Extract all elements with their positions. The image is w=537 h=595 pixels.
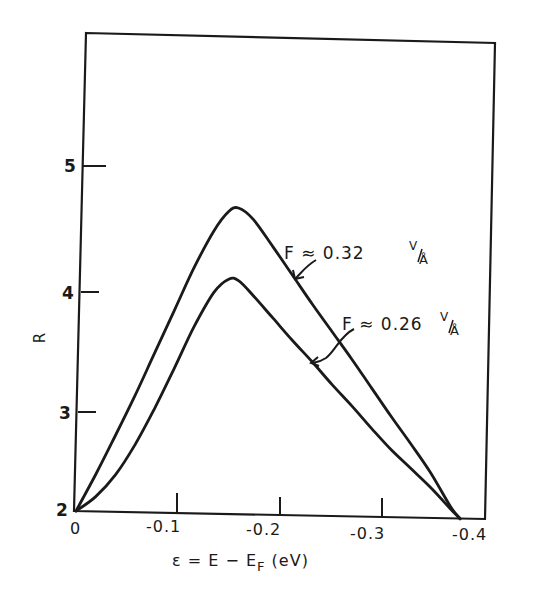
x-tick-label: -0.3 [350, 524, 385, 543]
chart-figure: 5 4 3 2 0 -0.1 -0.2 -0.3 -0.4 R ε = E − … [0, 0, 537, 595]
x-axis-label-suffix: (eV) [266, 551, 309, 570]
x-tick-label: 0 [70, 519, 81, 538]
x-tick-label: -0.1 [146, 517, 181, 536]
x-axis-label: ε = E − EF (eV) [172, 551, 309, 574]
annotation-unit-v: V [440, 310, 449, 324]
y-tick-label: 3 [59, 403, 71, 423]
series-layer [76, 207, 460, 518]
y-axis-label: R [31, 333, 49, 343]
x-tick-label: -0.2 [246, 520, 281, 539]
y-tick-labels: 5 4 3 2 [56, 156, 76, 520]
x-tick-label: -0.4 [452, 525, 487, 544]
annotation-label-0.32: F ≈ 0.32 V Å [284, 239, 428, 267]
annotation-unit-v: V [409, 239, 418, 253]
x-tick-labels: 0 -0.1 -0.2 -0.3 -0.4 [70, 517, 487, 544]
plot-frame [74, 33, 495, 519]
annotation-unit-a: Å [450, 323, 459, 338]
annotation-text: F ≈ 0.32 [284, 243, 365, 263]
annotation-text: F ≈ 0.26 [342, 314, 423, 334]
y-tick-label: 5 [64, 156, 76, 176]
y-tick-label: 4 [62, 283, 74, 303]
annotation-label-0.26: F ≈ 0.26 V Å [342, 310, 459, 338]
x-axis-label-prefix: ε = E − E [172, 551, 257, 570]
curve-f-0.32 [76, 207, 460, 518]
annotation-unit-a: Å [419, 252, 428, 267]
x-axis-label-subscript: F [257, 559, 265, 574]
y-tick-label: 2 [56, 500, 68, 520]
